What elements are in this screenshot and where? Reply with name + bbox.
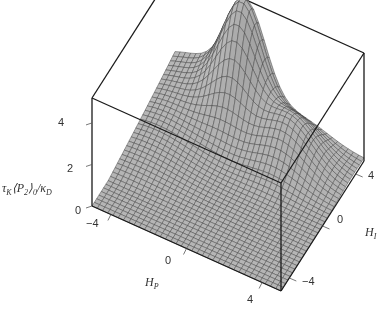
y-axis-label: HI xyxy=(365,226,376,241)
z-axis-label: τK⟨P2⟩0/κD xyxy=(2,182,52,197)
surface-plot-canvas xyxy=(0,0,392,311)
x-axis-label: HP xyxy=(145,276,159,291)
x-tick-minus4: −4 xyxy=(86,218,99,229)
x-tick-0: 0 xyxy=(165,255,171,266)
y-tick-4: 4 xyxy=(368,170,374,181)
z-tick-4: 4 xyxy=(58,117,64,128)
z-tick-2: 2 xyxy=(67,163,73,174)
z-tick-0: 0 xyxy=(75,205,81,216)
x-tick-4: 4 xyxy=(247,294,253,305)
y-tick-0: 0 xyxy=(337,214,343,225)
y-tick-minus4: −4 xyxy=(302,276,315,287)
